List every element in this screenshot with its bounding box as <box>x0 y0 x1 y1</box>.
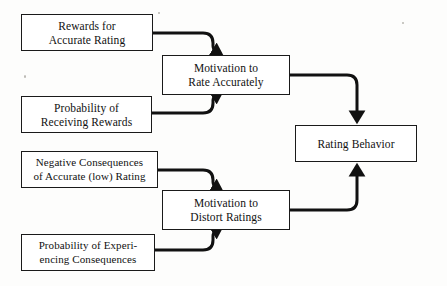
node-probability-experiencing-consequences[interactable]: Probability of Experi- encing Consequenc… <box>21 234 155 271</box>
node-label: Motivation to Distort Ratings <box>186 196 265 224</box>
edge-probability-consequences-to-motivation-distort <box>155 229 218 250</box>
node-rewards-accurate-rating[interactable]: Rewards for Accurate Rating <box>21 14 153 51</box>
node-probability-receiving-rewards[interactable]: Probability of Receiving Rewards <box>21 96 152 133</box>
edge-probability-rewards-to-motivation-accurate <box>152 94 218 113</box>
scan-speck <box>402 22 404 24</box>
node-motivation-rate-accurately[interactable]: Motivation to Rate Accurately <box>162 55 290 95</box>
edge-rewards-to-motivation-accurate <box>153 33 218 53</box>
node-label: Probability of Experi- encing Consequenc… <box>35 239 142 266</box>
edge-negative-consequences-to-motivation-distort <box>158 170 218 189</box>
diagram-canvas: Rewards for Accurate Rating Probability … <box>0 0 447 286</box>
node-label: Motivation to Rate Accurately <box>184 61 267 89</box>
node-negative-consequences[interactable]: Negative Consequences of Accurate (low) … <box>21 151 158 188</box>
node-rating-behavior[interactable]: Rating Behavior <box>295 125 417 162</box>
scan-speck <box>24 75 26 78</box>
node-label: Rating Behavior <box>313 137 398 151</box>
node-label: Negative Consequences of Accurate (low) … <box>29 156 149 183</box>
edge-motivation-accurate-to-rating-behavior <box>290 75 357 117</box>
node-motivation-distort-ratings[interactable]: Motivation to Distort Ratings <box>162 190 290 230</box>
node-label: Probability of Receiving Rewards <box>37 101 136 129</box>
edge-motivation-distort-to-rating-behavior <box>290 170 357 210</box>
node-label: Rewards for Accurate Rating <box>45 19 130 47</box>
scan-speck <box>158 12 160 14</box>
